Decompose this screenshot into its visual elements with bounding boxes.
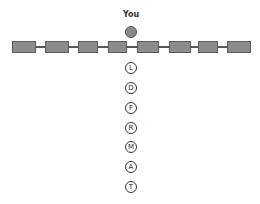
circled-letter: A [125,161,137,173]
circled-letter: R [125,122,137,134]
train-car [227,41,251,53]
you-label: You [118,10,144,19]
circled-letter: D [125,82,137,94]
train-car [12,41,36,53]
train-car [45,41,69,53]
train-car [169,41,191,53]
circled-letter: M [125,141,137,153]
you-marker [125,26,137,38]
train-car [108,41,127,53]
circled-letter: T [125,181,137,193]
circled-letter: L [125,62,137,74]
circled-letter: F [125,102,137,114]
train-car [198,41,218,53]
train-car [137,41,159,53]
train-car [78,41,98,53]
